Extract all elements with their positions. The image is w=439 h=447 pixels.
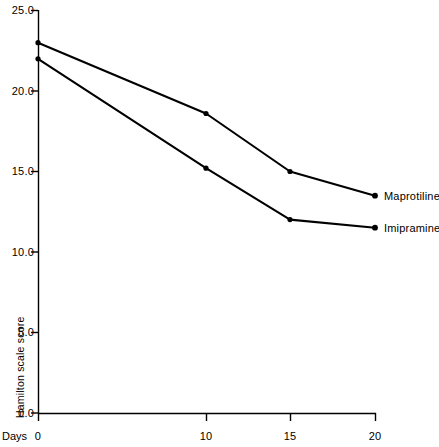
series-label-imipramine: Imipramine [384, 222, 439, 234]
y-tick-label-15: 15.0 [0, 165, 34, 177]
x-tick-label-10: 10 [186, 430, 226, 442]
plot-area [0, 0, 439, 447]
x-axis-title: Days [2, 430, 27, 442]
y-axis-ticks [31, 11, 38, 414]
series-markers-imipramine [35, 56, 378, 230]
chart-figure: 25.0 20.0 15.0 10.0 5.0 0.0 0 10 15 20 H… [0, 0, 439, 447]
y-tick-label-25: 25.0 [0, 4, 34, 16]
y-axis-title: Hamilton scale score [14, 317, 26, 418]
y-tick-label-10: 10.0 [0, 246, 34, 258]
x-tick-label-20: 20 [355, 430, 395, 442]
x-tick-label-15: 15 [270, 430, 310, 442]
series-label-maprotiline: Maprotiline [384, 190, 439, 202]
series-line-imipramine [38, 59, 375, 228]
y-tick-label-20: 20.0 [0, 85, 34, 97]
series-line-maprotiline [38, 43, 375, 196]
x-axis-ticks [39, 413, 376, 421]
